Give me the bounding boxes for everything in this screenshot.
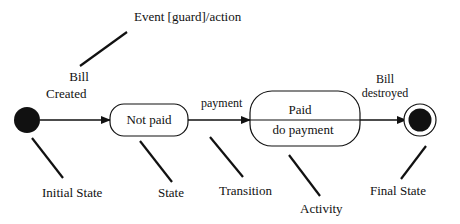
- legend-activity: Activity: [300, 202, 343, 216]
- initial-state-leader-line: [32, 138, 63, 178]
- state-not-paid-label: Not paid: [110, 113, 188, 127]
- legend-initial-state: Initial State: [42, 186, 102, 200]
- transition-destroyed-label: Bill destroyed: [357, 72, 413, 100]
- transition-created-line2: Created: [46, 87, 98, 101]
- state-paid-activity: do payment: [265, 123, 341, 137]
- legend-final-state: Final State: [370, 184, 426, 198]
- transition-destroyed-line1: Bill: [357, 72, 413, 86]
- state-paid-name: Paid: [265, 103, 335, 117]
- activity-leader-line: [289, 155, 320, 196]
- transition-created-label: Bill Created: [46, 70, 98, 101]
- transition-destroyed-line2: destroyed: [357, 86, 413, 100]
- final-state-leader-line: [401, 146, 426, 179]
- event-guard-action-label: Event [guard]/action: [134, 10, 241, 24]
- legend-transition: Transition: [219, 184, 272, 198]
- state-leader-line: [140, 141, 172, 182]
- transition-created-line1: Bill: [46, 70, 98, 84]
- transition-payment-label: payment: [201, 96, 242, 110]
- legend-state: State: [158, 186, 184, 200]
- initial-state-node[interactable]: [14, 107, 40, 133]
- state-paid-box[interactable]: [250, 91, 360, 146]
- transition-leader-line: [210, 137, 243, 177]
- final-state-inner-dot: [409, 109, 432, 132]
- event-leader-line: [80, 32, 127, 66]
